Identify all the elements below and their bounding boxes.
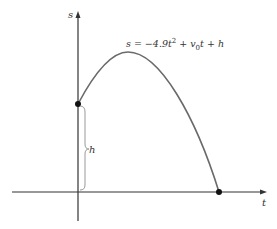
equation-label: s = −4.9t2 + v0t + h: [126, 37, 224, 52]
landing-point: [216, 189, 222, 195]
height-brace: [80, 106, 89, 190]
s-axis-label: s: [68, 9, 73, 20]
projectile-diagram: s t h s = −4.9t2 + v0t + h: [0, 0, 277, 229]
t-axis-arrow-icon: [260, 190, 267, 195]
equation-mid: + v: [176, 38, 196, 49]
equation-suffix: t + h: [200, 38, 224, 49]
equation-prefix: s = −4.9t: [126, 38, 172, 49]
height-label: h: [89, 144, 95, 155]
t-axis-label: t: [262, 197, 267, 208]
trajectory-curve: [78, 52, 219, 192]
s-axis-arrow-icon: [76, 11, 81, 18]
